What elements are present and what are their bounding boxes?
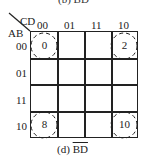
cell-minterm-2: 2: [111, 40, 138, 51]
caption-prefix: (d): [57, 143, 70, 155]
col-header-01: 01: [64, 20, 75, 31]
cell-minterm-8: 8: [31, 119, 58, 130]
grid-divider: [31, 58, 137, 60]
grid-divider: [31, 111, 137, 113]
row-header-11: 11: [16, 95, 27, 106]
caption-term-d-bar: D: [80, 143, 88, 155]
row-header-00: 00: [16, 41, 27, 52]
col-header-10: 10: [118, 20, 129, 31]
row-header-01: 01: [16, 68, 27, 79]
figure-caption: (d) BD: [0, 143, 145, 155]
cell-minterm-0: 0: [31, 40, 58, 51]
kmap-grid: 0 2 8 10: [30, 31, 138, 138]
corner-label-cd: CD: [20, 16, 35, 27]
corner-label-ab: AB: [8, 28, 23, 39]
row-header-10: 10: [16, 121, 27, 132]
cell-minterm-10: 10: [111, 119, 138, 130]
caption-term-b-bar: B: [73, 143, 80, 155]
col-header-00: 00: [37, 20, 48, 31]
grid-divider: [31, 84, 137, 86]
col-header-11: 11: [91, 20, 102, 31]
